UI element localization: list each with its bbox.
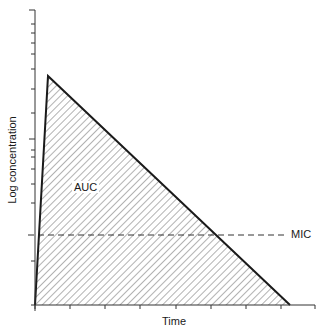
x-axis-label: Time bbox=[162, 315, 186, 327]
mic-label: MIC bbox=[291, 228, 311, 240]
auc-label: AUC bbox=[72, 181, 99, 193]
y-ticks bbox=[29, 10, 35, 261]
y-axis-label: Log concentration bbox=[6, 116, 18, 203]
pk-chart bbox=[0, 0, 322, 335]
x-ticks bbox=[35, 305, 315, 311]
